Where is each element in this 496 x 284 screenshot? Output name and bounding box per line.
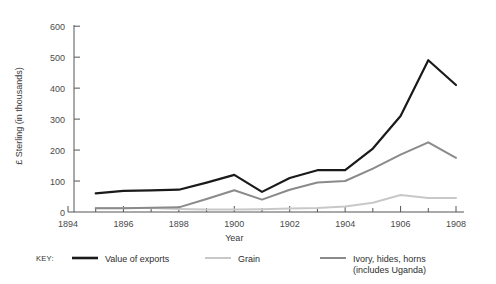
legend-key-label: KEY:	[36, 254, 54, 263]
x-tick-label: 1894	[58, 219, 78, 229]
y-tick-label: 500	[50, 53, 65, 63]
x-tick-label: 1906	[391, 219, 411, 229]
series-line-0	[96, 60, 456, 193]
series-line-2	[96, 142, 456, 208]
x-tick-label: 1904	[335, 219, 355, 229]
y-axis-title: £ Sterling (in thousands)	[14, 67, 24, 165]
legend-label-0: Value of exports	[105, 254, 170, 264]
x-tick-label: 1896	[113, 219, 133, 229]
x-axis-title: Year	[225, 233, 243, 243]
y-tick-label: 600	[50, 22, 65, 32]
y-tick-label: 300	[50, 115, 65, 125]
legend-label-2: Ivory, hides, horns	[353, 254, 426, 264]
chart-container: 0100200300400500600189418961898190019021…	[0, 0, 496, 284]
y-tick-label: 0	[60, 208, 65, 218]
x-tick-label: 1902	[280, 219, 300, 229]
y-tick-label: 200	[50, 146, 65, 156]
x-tick-label: 1908	[446, 219, 466, 229]
legend-label-1: Grain	[238, 254, 260, 264]
legend-label2-2: (includes Uganda)	[353, 265, 426, 275]
y-tick-label: 100	[50, 177, 65, 187]
x-tick-label: 1898	[169, 219, 189, 229]
y-tick-label: 400	[50, 84, 65, 94]
exports-line-chart: 0100200300400500600189418961898190019021…	[0, 0, 496, 284]
x-tick-label: 1900	[224, 219, 244, 229]
